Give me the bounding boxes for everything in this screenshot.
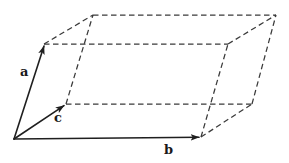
lattice-vectors <box>14 46 199 139</box>
vector-label-b: b <box>164 143 173 156</box>
edge-b-to-ab <box>201 44 228 137</box>
dashed-cell-edges <box>44 15 276 137</box>
vector-b-arrow <box>14 137 199 139</box>
vector-label-c: c <box>54 111 62 124</box>
unit-cell-figure: a b c <box>0 0 289 163</box>
edge-bc-to-abc <box>252 15 276 104</box>
vector-a-arrow <box>14 46 44 139</box>
vector-label-a: a <box>20 65 28 78</box>
unit-cell-diagram <box>0 0 289 163</box>
